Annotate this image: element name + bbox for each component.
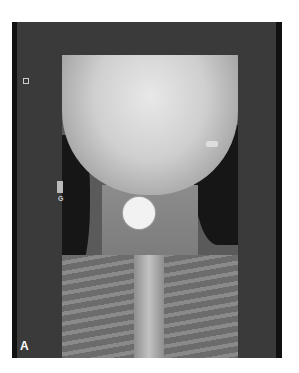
coin-foreign-body: [123, 197, 155, 229]
side-marker-letter: G: [58, 195, 63, 202]
spine: [134, 255, 164, 358]
ear-marker-icon: [206, 141, 218, 147]
xray-exposure-field: [62, 55, 238, 358]
side-marker-icon: [57, 181, 63, 193]
panel-label: A: [20, 339, 29, 353]
frame-right-edge: [276, 22, 282, 358]
neck-soft-tissue: [102, 185, 198, 265]
frame-left-edge: [12, 22, 17, 358]
marker-square-icon: [23, 78, 29, 84]
